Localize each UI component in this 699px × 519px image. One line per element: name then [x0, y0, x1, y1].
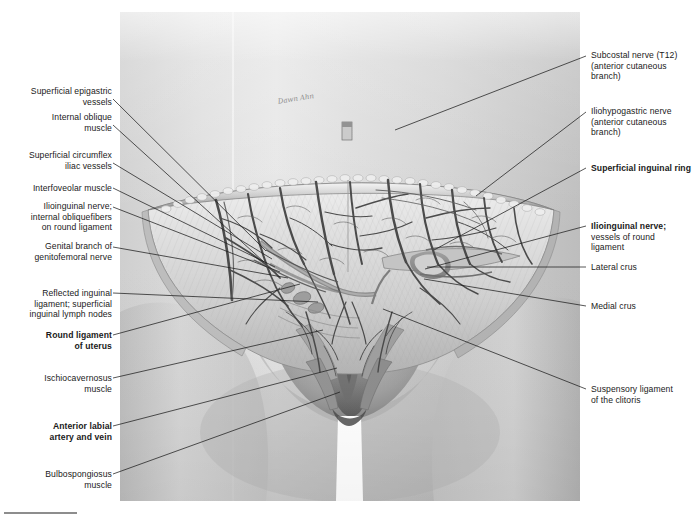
- anatomical-illustration: Dawn Ahn: [120, 12, 580, 501]
- label-ilioinguinal-nerve-internal-oblique-fibers: Ilioinguinal nerve; internal obliquefibe…: [8, 201, 112, 233]
- label-iliohypogastric-nerve: Iliohypogastric nerve (anterior cutaneou…: [591, 106, 695, 138]
- label-superficial-inguinal-ring: Superficial inguinal ring: [591, 163, 695, 174]
- label-internal-oblique-muscle: Internal oblique muscle: [8, 112, 112, 133]
- bottom-rule: [4, 512, 77, 514]
- label-interfoveolar-muscle: Interfoveolar muscle: [8, 183, 112, 194]
- label-lateral-crus: Lateral crus: [591, 262, 695, 273]
- label-superficial-epigastric-vessels: Superficial epigastric vessels: [8, 86, 112, 107]
- label-genital-branch-of-genitofemoral-nerve: Genital branch of genitofemoral nerve: [8, 241, 112, 262]
- label-bulbospongiosus-muscle: Bulbospongiosus muscle: [8, 469, 112, 490]
- label-ischiocavernosus-muscle: Ischiocavernosus muscle: [8, 373, 112, 394]
- label-medial-crus: Medial crus: [591, 301, 695, 312]
- label-superficial-circumflex-iliac-vessels: Superficial circumflex iliac vessels: [8, 150, 112, 171]
- label-subcostal-nerve-t12: Subcostal nerve (T12) (anterior cutaneou…: [591, 50, 695, 82]
- label-reflected-inguinal-ligament-lymph-nodes: Reflected inguinal ligament; superficial…: [8, 288, 112, 320]
- label-round-ligament-of-uterus: Round ligament of uterus: [8, 330, 112, 351]
- label-suspensory-ligament-of-the-clitoris: Suspensory ligament of the clitoris: [591, 384, 695, 405]
- label-ilioinguinal-nerve-vessels-of-round-ligament: Ilioinguinal nerve; vessels of round lig…: [591, 221, 695, 253]
- illustration-canvas: [120, 12, 580, 501]
- label-anterior-labial-artery-and-vein: Anterior labial artery and vein: [8, 421, 112, 442]
